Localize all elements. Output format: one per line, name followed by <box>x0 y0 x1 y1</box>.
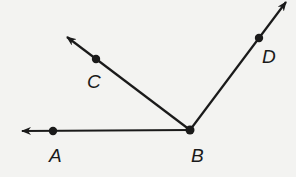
label-d: D <box>262 46 276 67</box>
label-c: C <box>87 71 101 92</box>
ray-bc <box>67 37 190 130</box>
ray-ba <box>22 130 190 131</box>
point-a <box>49 127 57 135</box>
label-b: B <box>191 145 204 166</box>
diagram-canvas: A C D B <box>0 0 296 177</box>
label-a: A <box>48 145 62 166</box>
point-d <box>255 34 263 42</box>
rays-diagram: A C D B <box>0 0 296 177</box>
point-c <box>92 55 100 63</box>
point-b <box>186 126 195 135</box>
